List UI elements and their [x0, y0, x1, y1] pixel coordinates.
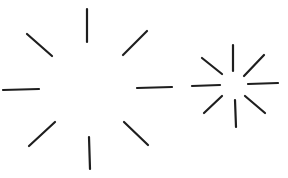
ray-e-icon: [248, 83, 278, 84]
ray-e-icon: [137, 87, 172, 88]
small-burst-icon: [192, 45, 278, 127]
ray-sw-icon: [204, 96, 222, 113]
ray-se-icon: [124, 122, 148, 145]
ray-ne-icon: [123, 31, 147, 55]
ray-nw-icon: [202, 58, 222, 74]
ray-w-icon: [3, 89, 39, 90]
ray-sw-icon: [29, 122, 55, 146]
large-burst-icon: [3, 9, 172, 169]
ray-nw-icon: [27, 34, 52, 56]
ray-ne-icon: [244, 55, 264, 76]
starburst-drawing: [0, 0, 288, 178]
ray-se-icon: [245, 96, 265, 113]
drawing-canvas: Two starburst figures drawn with eight s…: [0, 0, 288, 178]
ray-s-icon: [89, 137, 90, 169]
ray-s-icon: [235, 100, 236, 127]
ray-w-icon: [192, 85, 220, 86]
